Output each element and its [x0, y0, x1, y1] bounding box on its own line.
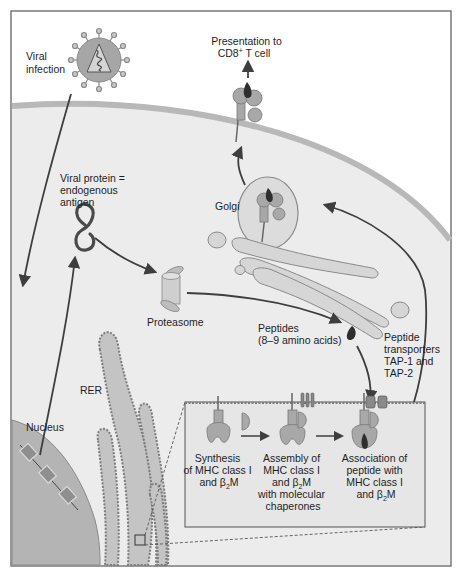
- label-rer: RER: [80, 384, 103, 396]
- mhc-class-i-pathway-diagram: Viral infection Presentation to CD8+ T c…: [0, 0, 462, 576]
- label-golgi: Golgi: [215, 200, 240, 212]
- chaperone-icon: [301, 393, 314, 407]
- label-nucleus: Nucleus: [26, 421, 64, 433]
- label-proteasome: Proteasome: [147, 316, 204, 328]
